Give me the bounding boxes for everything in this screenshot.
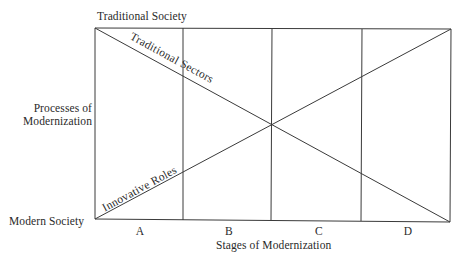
y-axis-label: Processes of Modernization [6,102,92,128]
stage-c-label: C [309,225,329,238]
modernization-diagram: Traditional Society Processes of Moderni… [0,0,465,265]
divider-c-d [361,29,362,221]
stage-a-label: A [130,225,150,238]
stage-b-label: B [219,225,239,238]
y-axis-label-line-1: Processes of [6,102,92,115]
modern-society-label: Modern Society [9,215,84,228]
x-axis-label: Stages of Modernization [216,239,331,252]
traditional-sectors-line [95,28,450,222]
box-bottom-edge [95,219,450,222]
y-axis-label-line-2: Modernization [6,115,92,128]
box-right-edge [450,29,451,222]
box-top-edge [95,28,451,29]
stage-d-label: D [398,225,418,238]
traditional-society-label: Traditional Society [97,10,187,23]
